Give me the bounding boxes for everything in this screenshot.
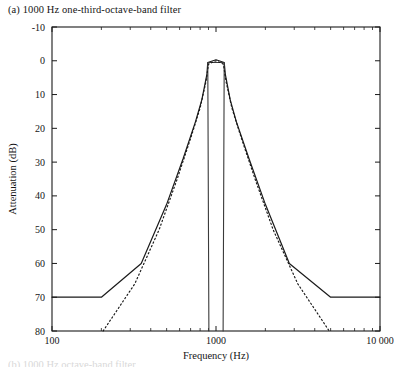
y-axis-title: Attenuation (dB) (7, 143, 19, 215)
y-tick-label: 50 (35, 224, 45, 235)
x-tick-label: 100 (45, 335, 60, 346)
chart-series-layer (52, 60, 380, 331)
y-tick-label: 10 (35, 89, 45, 100)
x-axis-tick-labels: 100100010 000 (45, 335, 394, 346)
y-tick-label: 70 (35, 292, 45, 303)
x-axis-title: Frequency (Hz) (183, 350, 250, 362)
y-axis-major-ticks (52, 27, 380, 331)
y-tick-label: 80 (35, 326, 45, 337)
y-tick-label: 30 (35, 157, 45, 168)
series-line-1 (208, 62, 224, 331)
attenuation-vs-frequency-chart: 100100010 000 -1001020304050607080 Frequ… (0, 0, 403, 368)
series-line-0 (52, 60, 380, 297)
x-axis-minor-ticks (101, 27, 372, 331)
x-tick-label: 10 000 (366, 335, 394, 346)
x-tick-label: 1000 (206, 335, 226, 346)
x-axis-major-ticks (52, 27, 380, 331)
y-tick-label: 40 (35, 190, 45, 201)
y-tick-label: 0 (40, 55, 45, 66)
y-axis-tick-labels: -1001020304050607080 (32, 22, 45, 337)
y-tick-label: 20 (35, 123, 45, 134)
series-line-2 (103, 61, 329, 331)
figure-container: (a) 1000 Hz one-third-octave-band filter… (0, 0, 403, 368)
y-tick-label: 60 (35, 258, 45, 269)
plot-frame (52, 27, 380, 331)
figure-caption-b-clipped: (b) 1000 Hz octave-band filter (8, 358, 136, 367)
y-tick-label: -10 (32, 22, 45, 33)
